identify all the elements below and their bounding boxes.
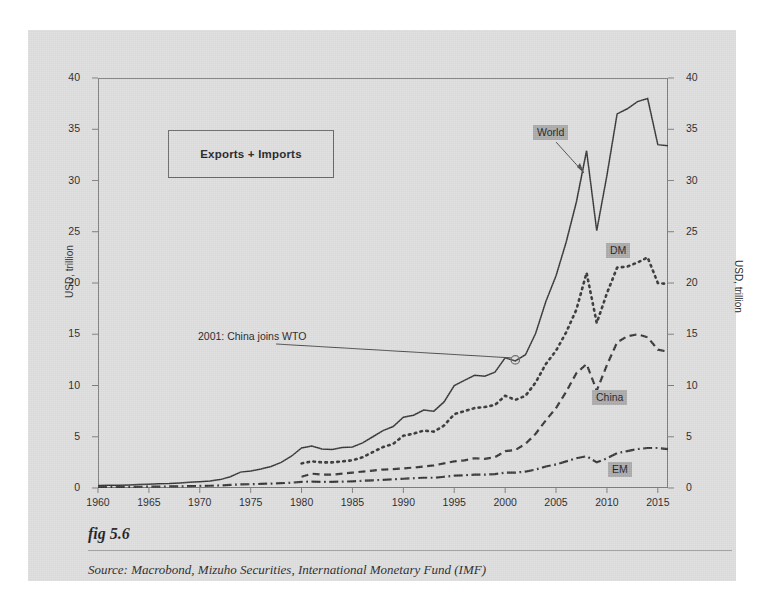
- y-tick-right-25: 25: [686, 225, 710, 237]
- y-tick-right-30: 30: [686, 174, 710, 186]
- y-tick-left-20: 20: [56, 276, 80, 288]
- figure-card: Exports + Imports USD, trillion USD, tri…: [28, 30, 736, 581]
- x-tick-1975: 1975: [231, 496, 271, 508]
- y-tick-right-35: 35: [686, 122, 710, 134]
- x-tick-1985: 1985: [332, 496, 372, 508]
- y-tick-right-10: 10: [686, 379, 710, 391]
- y-tick-left-30: 30: [56, 174, 80, 186]
- series-tag-world: World: [533, 125, 568, 140]
- y-tick-right-5: 5: [686, 430, 710, 442]
- y-tick-left-25: 25: [56, 225, 80, 237]
- figure-page: Exports + Imports USD, trillion USD, tri…: [0, 0, 767, 605]
- x-tick-1965: 1965: [129, 496, 169, 508]
- y-axis-right-title: USD, trillion: [733, 260, 744, 313]
- x-tick-1970: 1970: [180, 496, 220, 508]
- x-tick-2015: 2015: [638, 496, 678, 508]
- y-axis-left-title: USD, trillion: [64, 245, 75, 298]
- x-tick-1990: 1990: [383, 496, 423, 508]
- figure-number-caption: fig 5.6: [88, 525, 130, 543]
- x-tick-2000: 2000: [485, 496, 525, 508]
- series-tag-dm: DM: [606, 243, 630, 258]
- x-tick-1980: 1980: [282, 496, 322, 508]
- annotation-china-wto: 2001: China joins WTO: [198, 330, 306, 342]
- x-tick-1995: 1995: [434, 496, 474, 508]
- series-line-dm: [302, 257, 668, 463]
- y-tick-right-15: 15: [686, 327, 710, 339]
- chart-canvas: [28, 30, 736, 500]
- y-tick-left-5: 5: [56, 430, 80, 442]
- y-tick-left-40: 40: [56, 71, 80, 83]
- y-tick-right-20: 20: [686, 276, 710, 288]
- legend-title-box: Exports + Imports: [168, 130, 334, 178]
- x-tick-1960: 1960: [78, 496, 118, 508]
- figure-source-note: Source: Macrobond, Mizuho Securities, In…: [88, 562, 486, 578]
- y-tick-left-0: 0: [56, 481, 80, 493]
- series-tag-china: China: [592, 390, 627, 405]
- annotation-leader-wto: [276, 344, 511, 358]
- x-tick-2005: 2005: [536, 496, 576, 508]
- x-tick-2010: 2010: [587, 496, 627, 508]
- caption-divider: [88, 550, 732, 551]
- y-tick-right-0: 0: [686, 481, 710, 493]
- series-line-em: [98, 448, 668, 487]
- series-tag-em: EM: [608, 462, 632, 477]
- legend-title-label: Exports + Imports: [200, 148, 302, 160]
- y-tick-left-35: 35: [56, 122, 80, 134]
- y-tick-right-40: 40: [686, 71, 710, 83]
- y-tick-left-15: 15: [56, 327, 80, 339]
- y-tick-left-10: 10: [56, 379, 80, 391]
